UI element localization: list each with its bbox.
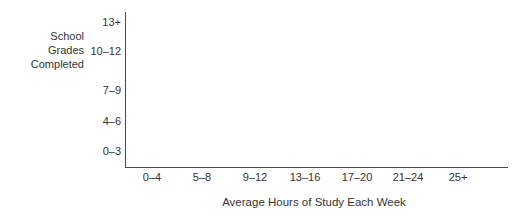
y-axis-tick-label: 0–3 <box>84 145 121 157</box>
y-axis-tick-label: 10–12 <box>84 45 121 57</box>
x-axis-tick-label: 17–20 <box>342 171 373 184</box>
x-axis-tick-label: 0–4 <box>143 171 161 184</box>
x-axis-title: Average Hours of Study Each Week <box>0 195 518 209</box>
y-axis-title-line-1: School <box>0 29 84 43</box>
chart-figure: School Grades Completed 13+10–127–94–60–… <box>0 0 518 218</box>
x-axis-tick-label: 9–12 <box>243 171 267 184</box>
y-axis-tick-labels: 13+10–127–94–60–3 <box>84 0 121 218</box>
x-axis-tick-label: 13–16 <box>290 171 321 184</box>
x-axis-title-text: Average Hours of Study Each Week <box>222 195 406 209</box>
y-axis-tick-label: 13+ <box>84 16 121 28</box>
x-axis-tick-label: 21–24 <box>393 171 424 184</box>
x-axis-tick-label: 5–8 <box>193 171 211 184</box>
plot-area <box>126 12 508 167</box>
x-axis-tick-label: 25+ <box>449 171 468 184</box>
y-axis-tick-label: 4–6 <box>84 115 121 127</box>
x-axis-tick-labels: 0–45–89–1213–1617–2021–2425+ <box>0 171 518 185</box>
y-axis-title: School Grades Completed <box>0 29 84 71</box>
x-axis-line <box>125 167 508 168</box>
y-axis-title-line-3: Completed <box>0 57 84 71</box>
y-axis-title-line-2: Grades <box>0 43 84 57</box>
y-axis-tick-label: 7–9 <box>84 84 121 96</box>
